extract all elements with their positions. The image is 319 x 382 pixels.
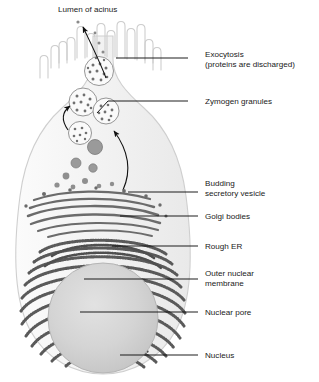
granule (88, 140, 103, 155)
label-outer-nuclear-membrane: Outer nuclear membrane (205, 269, 256, 288)
granule (110, 182, 114, 186)
secreted-protein (76, 20, 79, 23)
label-golgi-bodies: Golgi bodies (205, 212, 250, 221)
granule (71, 185, 76, 190)
label-zymogen-granules: Zymogen granules (205, 97, 272, 106)
nucleus (48, 263, 158, 373)
secreted-protein (98, 42, 101, 45)
granule (69, 122, 92, 145)
label-nucleus: Nucleus (205, 351, 234, 360)
granule (54, 182, 59, 187)
label-nuclear-pore: Nuclear pore (205, 308, 252, 317)
secreted-protein (94, 32, 97, 35)
diagram-title: Lumen of acinus (58, 5, 117, 14)
label-budding-secretory-vesicle: Budding secretory vesicle (205, 179, 266, 198)
granule (82, 178, 88, 184)
acinar-cell-diagram: Lumen of acinus Exocytosis (proteins are… (0, 0, 319, 382)
granule (93, 98, 119, 124)
label-rough-er: Rough ER (205, 242, 242, 251)
secreted-protein (102, 51, 105, 54)
granule (71, 158, 81, 168)
granule (63, 173, 70, 180)
granule (89, 164, 97, 172)
label-exocytosis: Exocytosis (proteins are discharged) (205, 50, 295, 69)
